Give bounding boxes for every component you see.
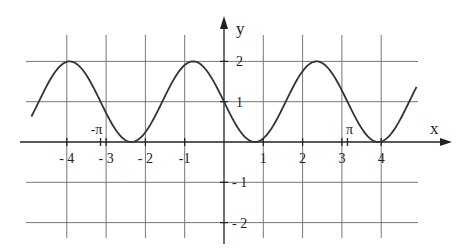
grid bbox=[26, 35, 418, 238]
y-tick-label: 1 bbox=[236, 95, 243, 110]
function-graph: - 4- 3- 2-1123421- 1- 2-ππ x y bbox=[0, 0, 458, 251]
y-axis-arrow-icon bbox=[220, 16, 228, 29]
x-tick-label: -1 bbox=[179, 151, 191, 166]
x-tick-label: - 2 bbox=[138, 151, 153, 166]
x-axis-arrow-icon bbox=[440, 138, 452, 146]
x-tick-label: 1 bbox=[260, 151, 267, 166]
pi-label: -π bbox=[91, 122, 103, 137]
x-axis-label: x bbox=[430, 119, 439, 138]
y-tick-label: - 1 bbox=[232, 175, 247, 190]
x-tick-label: 3 bbox=[338, 151, 345, 166]
y-tick-label: 2 bbox=[236, 54, 243, 69]
pi-label: π bbox=[346, 122, 353, 137]
x-tick-label: - 3 bbox=[99, 151, 114, 166]
y-tick-label: - 2 bbox=[232, 216, 247, 231]
x-tick-label: - 4 bbox=[59, 151, 74, 166]
axes bbox=[20, 16, 452, 244]
y-axis-label: y bbox=[236, 19, 245, 38]
x-tick-label: 2 bbox=[299, 151, 306, 166]
x-tick-label: 4 bbox=[378, 151, 385, 166]
